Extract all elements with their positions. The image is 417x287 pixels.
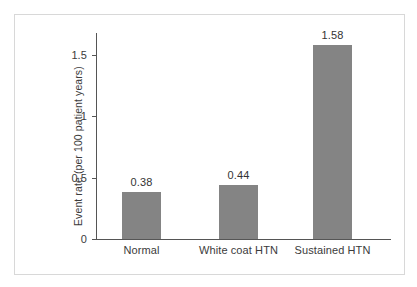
category-label-white-coat-htn: White coat HTN [189,244,288,256]
plot-area: Event rate (per 100 patient years) 0 0.5… [0,0,417,287]
bar-normal[interactable] [122,192,161,239]
bar-value-normal: 0.38 [112,177,171,188]
y-tick-label-0-5: 0.5 [71,173,87,184]
bar-value-white-coat-htn: 0.44 [209,170,268,181]
bar-chart-figure: Event rate (per 100 patient years) 0 0.5… [0,0,417,287]
y-tick-mark-1-5 [92,55,97,56]
bar-sustained-htn[interactable] [313,45,352,239]
y-axis-line [96,33,97,240]
bar-white-coat-htn[interactable] [219,185,258,239]
x-axis-line [96,239,391,240]
y-tick-label-1: 1 [81,111,87,122]
category-label-sustained-htn: Sustained HTN [283,244,382,256]
y-tick-label-0: 0 [81,234,87,245]
y-tick-mark-1 [92,116,97,117]
y-tick-mark-0 [92,239,97,240]
bar-value-sustained-htn: 1.58 [303,30,362,41]
y-tick-label-1-5: 1.5 [71,50,87,61]
y-tick-mark-0-5 [92,178,97,179]
category-label-normal: Normal [92,244,191,256]
